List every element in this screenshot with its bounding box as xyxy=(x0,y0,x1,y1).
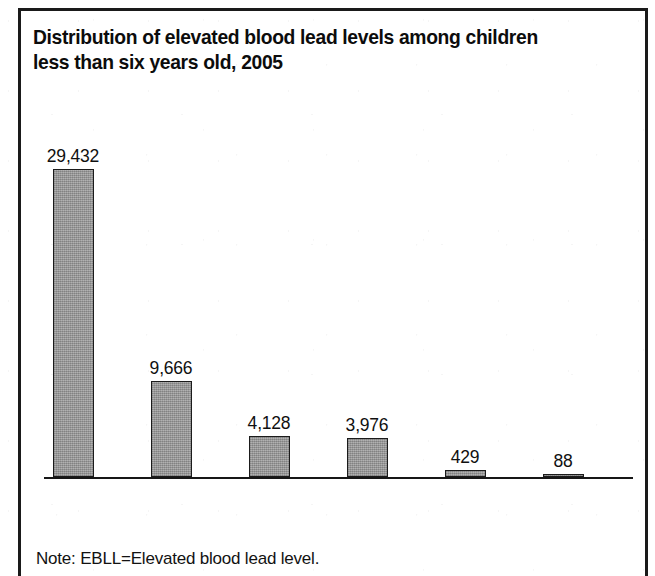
bar-rect[interactable] xyxy=(151,381,192,477)
bar-column: 4,128 xyxy=(221,147,317,477)
bar-rect[interactable] xyxy=(249,436,290,477)
bar-column: 29,432 xyxy=(25,147,121,477)
bar-value-label: 3,976 xyxy=(346,416,389,435)
figure-note: Note: EBLL=Elevated blood lead level. xyxy=(36,549,319,569)
bar-rect[interactable] xyxy=(445,470,486,477)
bar-column: 429 xyxy=(417,147,513,477)
bar-column: 9,666 xyxy=(123,147,219,477)
bar-rect[interactable] xyxy=(543,474,584,477)
x-axis-line xyxy=(44,477,633,479)
bar-value-label: 429 xyxy=(451,448,480,467)
bar-value-label: 9,666 xyxy=(150,359,193,378)
bar-rect[interactable] xyxy=(347,438,388,477)
bar-value-label: 88 xyxy=(553,452,572,471)
bar-column: 88 xyxy=(515,147,611,477)
bar-value-label: 29,432 xyxy=(47,147,99,166)
bar-rect[interactable] xyxy=(53,169,94,477)
bar-value-label: 4,128 xyxy=(248,414,291,433)
bar-column: 3,976 xyxy=(319,147,415,477)
bar-chart-plot-area: 29,432 10–14 µg/dL 9,666 15–19 µg/dL 4,1… xyxy=(0,0,655,576)
